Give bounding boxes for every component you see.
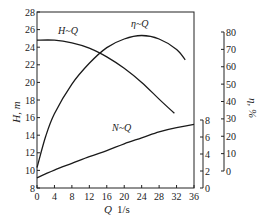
n-tick-label: 0 — [205, 183, 210, 194]
n-tick-label: 4 — [205, 149, 210, 160]
h-q-curve — [37, 40, 174, 113]
x-tick-label: 12 — [84, 191, 94, 202]
eta-axis-label: η, % — [247, 98, 257, 118]
h-tick-label: 16 — [25, 112, 35, 123]
h-tick-label: 24 — [25, 42, 35, 53]
eta-tick-label: 80 — [226, 27, 236, 38]
eta-tick-label: 40 — [226, 96, 236, 107]
h-axis-label: H, m — [10, 101, 22, 123]
n-tick-label: 8 — [205, 115, 210, 126]
x-tick-label: 8 — [69, 191, 74, 202]
n-axis: 02468 — [200, 115, 210, 194]
curve-label-h: H~Q — [57, 25, 79, 36]
h-tick-label: 28 — [25, 7, 35, 18]
eta-tick-label: 50 — [226, 79, 236, 90]
x-tick-label: 16 — [102, 191, 112, 202]
n-tick-label: 2 — [205, 166, 210, 177]
eta-tick-label: 60 — [226, 61, 236, 72]
x-tick-label: 32 — [172, 191, 182, 202]
eta-tick-label: 20 — [226, 131, 236, 142]
curve-label-n: N~Q — [111, 122, 132, 133]
x-tick-label: 0 — [35, 191, 40, 202]
x-axis-symbol: Q — [104, 203, 112, 215]
n-tick-label: 6 — [205, 132, 210, 143]
curve-label-eta: η~Q — [131, 18, 149, 29]
plot-border — [37, 12, 194, 188]
h-tick-label: 12 — [25, 147, 35, 158]
curves — [37, 36, 194, 178]
eta-tick-label: 0 — [226, 166, 231, 177]
pump-characteristic-chart: 810121416182022242628 04812162024283236 … — [0, 0, 257, 224]
eta-tick-label: 10 — [226, 148, 236, 159]
x-tick-label: 24 — [137, 191, 147, 202]
h-tick-label: 10 — [25, 165, 35, 176]
x-tick-label: 4 — [52, 191, 57, 202]
x-tick-label: 28 — [154, 191, 164, 202]
eta-axis: 01020304050607080 — [221, 27, 236, 177]
x-axis-unit: 1/s — [117, 203, 130, 215]
h-tick-label: 20 — [25, 77, 35, 88]
eta-q-curve — [37, 36, 185, 168]
x-tick-label: 20 — [119, 191, 129, 202]
h-tick-label: 14 — [25, 130, 35, 141]
plot-frame — [37, 12, 194, 188]
h-tick-label: 22 — [25, 59, 35, 70]
eta-tick-label: 70 — [226, 44, 236, 55]
h-tick-label: 18 — [25, 95, 35, 106]
h-tick-label: 26 — [25, 24, 35, 35]
x-tick-label: 36 — [189, 191, 199, 202]
eta-tick-label: 30 — [226, 113, 236, 124]
